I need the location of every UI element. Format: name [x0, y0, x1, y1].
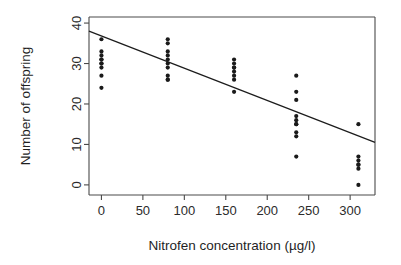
data-point: [166, 74, 170, 78]
x-axis-ticks: 050100150200250300: [98, 195, 361, 218]
data-point: [166, 53, 170, 57]
data-point: [356, 163, 360, 167]
y-tick-label: 0: [70, 181, 85, 188]
data-point: [99, 53, 103, 57]
x-tick-label: 200: [256, 203, 278, 218]
regression-line: [89, 31, 375, 142]
x-tick-label: 150: [215, 203, 237, 218]
x-tick-label: 100: [173, 203, 195, 218]
data-point: [232, 90, 236, 94]
data-point: [166, 49, 170, 53]
data-point: [166, 65, 170, 69]
y-axis-ticks: 010203040: [70, 16, 90, 189]
x-tick-label: 50: [136, 203, 150, 218]
data-point: [294, 74, 298, 78]
data-point: [232, 65, 236, 69]
data-point: [99, 61, 103, 65]
data-point: [294, 118, 298, 122]
data-point: [99, 86, 103, 90]
data-point: [99, 74, 103, 78]
data-point: [232, 70, 236, 74]
data-point: [294, 122, 298, 126]
data-point: [356, 183, 360, 187]
data-point: [166, 61, 170, 65]
x-tick-label: 0: [98, 203, 105, 218]
data-point: [294, 98, 298, 102]
regression-line-group: [89, 31, 375, 142]
data-point: [356, 159, 360, 163]
y-tick-label: 20: [70, 97, 85, 111]
data-points-group: [99, 37, 360, 187]
data-point: [294, 114, 298, 118]
plot-box-axes: [89, 17, 375, 195]
data-point: [232, 61, 236, 65]
scatter-plot-figure: 010203040 050100150200250300 Nitrofen co…: [0, 0, 401, 265]
data-point: [166, 41, 170, 45]
data-point: [294, 154, 298, 158]
data-point: [232, 78, 236, 82]
data-point: [294, 130, 298, 134]
x-axis-title: Nitrofen concentration (µg/l): [149, 238, 316, 253]
data-point: [356, 167, 360, 171]
x-tick-label: 300: [339, 203, 361, 218]
y-tick-label: 10: [70, 137, 85, 151]
data-point: [232, 57, 236, 61]
data-point: [99, 37, 103, 41]
data-point: [99, 57, 103, 61]
y-axis-title: Number of offspring: [18, 47, 33, 165]
y-tick-label: 40: [70, 16, 85, 30]
data-point: [99, 65, 103, 69]
data-point: [99, 49, 103, 53]
data-point: [356, 154, 360, 158]
data-point: [166, 78, 170, 82]
data-point: [356, 122, 360, 126]
y-tick-label: 30: [70, 56, 85, 70]
data-point: [166, 37, 170, 41]
data-point: [294, 134, 298, 138]
data-point: [294, 90, 298, 94]
plot-canvas: 010203040 050100150200250300 Nitrofen co…: [0, 0, 401, 265]
data-point: [232, 74, 236, 78]
x-tick-label: 250: [298, 203, 320, 218]
data-point: [166, 57, 170, 61]
